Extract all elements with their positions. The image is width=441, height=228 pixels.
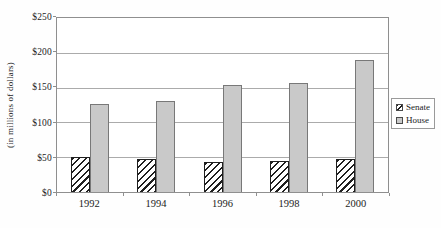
bar-senate-1998 [270, 161, 289, 192]
legend-swatch-house-solid [396, 117, 403, 124]
y-tick-mark-50 [53, 157, 56, 158]
x-tick-mark-5 [389, 193, 390, 196]
bar-house-2000 [355, 60, 374, 192]
x-tick-mark-1 [123, 193, 124, 196]
y-tick-label-250: $250 [0, 11, 52, 23]
bar-senate-2000 [336, 159, 355, 192]
x-axis-label-1996: 1996 [189, 198, 256, 209]
x-axis-label-1998: 1998 [256, 198, 323, 209]
x-tick-mark-0 [56, 193, 57, 196]
y-tick-mark-250 [53, 16, 56, 17]
legend-item-senate: Senate [396, 102, 430, 112]
legend: Senate House [391, 98, 435, 129]
bar-house-1996 [223, 85, 242, 192]
bar-house-1992 [90, 104, 109, 192]
x-axis-label-1992: 1992 [56, 198, 123, 209]
y-tick-label-100: $100 [0, 117, 52, 129]
bar-senate-1994 [137, 159, 156, 192]
plot-area [56, 17, 389, 193]
x-tick-mark-3 [256, 193, 257, 196]
y-axis-title-wrap: (in millions of dollars) [2, 17, 18, 193]
y-axis-title: (in millions of dollars) [5, 62, 15, 148]
legend-label-senate: Senate [406, 102, 430, 112]
y-tick-label-50: $50 [0, 152, 52, 164]
y-tick-label-0: $0 [0, 187, 52, 199]
x-axis-label-1994: 1994 [123, 198, 190, 209]
y-tick-label-150: $150 [0, 81, 52, 93]
bar-senate-1992 [71, 157, 90, 192]
y-tick-mark-100 [53, 122, 56, 123]
x-tick-mark-4 [322, 193, 323, 196]
bar-house-1994 [156, 101, 175, 192]
y-tick-mark-200 [53, 51, 56, 52]
y-tick-mark-150 [53, 86, 56, 87]
bar-house-1998 [289, 83, 308, 192]
x-tick-mark-2 [189, 193, 190, 196]
y-tick-label-200: $200 [0, 46, 52, 58]
legend-label-house: House [406, 115, 429, 125]
legend-swatch-senate-hatch [396, 104, 403, 111]
x-axis-label-2000: 2000 [322, 198, 389, 209]
legend-item-house: House [396, 115, 430, 125]
gridline-200 [57, 53, 388, 54]
bar-senate-1996 [204, 162, 223, 192]
bar-chart: (in millions of dollars) Senate House $0… [0, 0, 441, 228]
